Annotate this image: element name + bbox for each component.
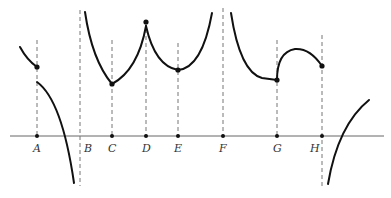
point-a-value xyxy=(34,64,39,69)
label-h: H xyxy=(309,142,320,155)
axis-point-c xyxy=(110,134,114,138)
graph-canvas: A B C D E F G H xyxy=(0,0,391,198)
axis-point-d xyxy=(144,134,148,138)
label-f: F xyxy=(218,142,227,155)
point-g-value xyxy=(274,77,279,82)
label-b: B xyxy=(83,142,92,155)
curve-segment-right-of-h xyxy=(328,100,369,184)
axis-point-g xyxy=(275,134,279,138)
point-h-value xyxy=(319,63,324,68)
axis-point-e xyxy=(176,134,180,138)
curve-segment-b-to-c xyxy=(85,12,112,84)
axis-point-a xyxy=(35,134,39,138)
point-c-value xyxy=(109,81,114,86)
label-d: D xyxy=(141,142,151,155)
curve-segment-f-to-g xyxy=(231,13,277,80)
label-e: E xyxy=(173,142,182,155)
curve-segment-a-to-b xyxy=(37,82,74,183)
label-c: C xyxy=(108,142,117,155)
curve-segment-g-to-h xyxy=(277,49,322,80)
function-graph-figure: A B C D E F G H xyxy=(0,0,391,198)
curve-segment-d-to-e xyxy=(146,26,178,70)
curve-segment-c-to-d xyxy=(112,26,146,84)
label-a: A xyxy=(32,142,41,155)
axis-point-f xyxy=(221,134,225,138)
axis-point-h xyxy=(320,134,324,138)
curve-segment-e-to-f xyxy=(178,13,212,70)
point-e-value xyxy=(175,67,180,72)
curve-segment-left-of-a xyxy=(20,47,37,67)
label-g: G xyxy=(273,142,282,155)
point-d-value xyxy=(143,19,148,24)
